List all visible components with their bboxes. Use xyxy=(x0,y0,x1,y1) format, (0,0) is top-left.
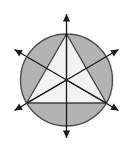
vertical-symmetry-axis-arrowhead-start-icon xyxy=(63,131,70,139)
vertical-symmetry-axis-arrowhead-end-icon xyxy=(63,14,70,22)
geometry-figure-container: Equilateral triangle inscribed in circle… xyxy=(0,0,133,152)
geometry-diagram-svg: Equilateral triangle inscribed in circle… xyxy=(0,0,133,152)
